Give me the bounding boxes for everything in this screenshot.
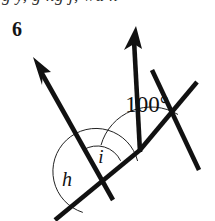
angle-label-100-degrees: 100° bbox=[125, 92, 169, 117]
figure-page: g y, g ng j, wu n 6 h i 100° bbox=[0, 0, 215, 221]
angle-label-i: i bbox=[98, 146, 103, 167]
geometry-figure: h i 100° bbox=[0, 0, 215, 221]
angle-label-h: h bbox=[62, 168, 72, 190]
left-ray-shaft bbox=[40, 70, 113, 200]
